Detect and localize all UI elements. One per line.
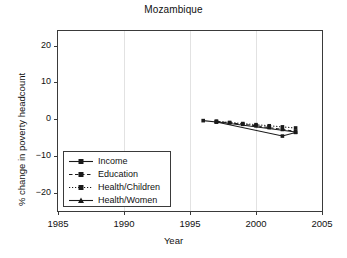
x-axis-label: Year bbox=[0, 235, 347, 246]
y-tick-label: −20 bbox=[11, 187, 51, 197]
legend-label: Health/Women bbox=[98, 195, 157, 206]
chart-legend: Income Education Health/Children Health/… bbox=[63, 151, 171, 207]
chart-figure: Mozambique % change in poverty headcount… bbox=[0, 0, 347, 258]
x-tick bbox=[322, 211, 323, 215]
x-tick bbox=[256, 211, 257, 215]
x-tick-label: 1985 bbox=[36, 218, 80, 229]
chart-title: Mozambique bbox=[0, 4, 347, 15]
legend-item-income[interactable]: Income bbox=[68, 155, 166, 168]
x-tick bbox=[190, 211, 191, 215]
legend-label: Income bbox=[98, 156, 128, 167]
y-tick-label: 0 bbox=[11, 113, 51, 123]
legend-swatch-solid-square bbox=[68, 156, 94, 167]
legend-swatch-dashed-square bbox=[68, 169, 94, 180]
legend-swatch-dotted-square bbox=[68, 182, 94, 193]
y-tick bbox=[54, 193, 58, 194]
legend-item-health-women[interactable]: Health/Women bbox=[68, 194, 166, 207]
y-tick bbox=[54, 82, 58, 83]
legend-swatch-solid-triangle bbox=[68, 195, 94, 206]
x-tick bbox=[124, 211, 125, 215]
y-tick bbox=[54, 119, 58, 120]
x-tick-label: 2005 bbox=[300, 218, 344, 229]
x-tick-label: 1995 bbox=[168, 218, 212, 229]
y-tick-label: 20 bbox=[11, 40, 51, 50]
legend-label: Education bbox=[98, 169, 138, 180]
y-tick-label: 10 bbox=[11, 76, 51, 86]
legend-item-health-children[interactable]: Health/Children bbox=[68, 181, 166, 194]
y-tick-label: −10 bbox=[11, 150, 51, 160]
x-tick bbox=[58, 211, 59, 215]
x-tick-label: 1990 bbox=[102, 218, 146, 229]
legend-item-education[interactable]: Education bbox=[68, 168, 166, 181]
y-tick bbox=[54, 156, 58, 157]
y-tick bbox=[54, 46, 58, 47]
x-tick-label: 2000 bbox=[234, 218, 278, 229]
legend-label: Health/Children bbox=[98, 182, 160, 193]
